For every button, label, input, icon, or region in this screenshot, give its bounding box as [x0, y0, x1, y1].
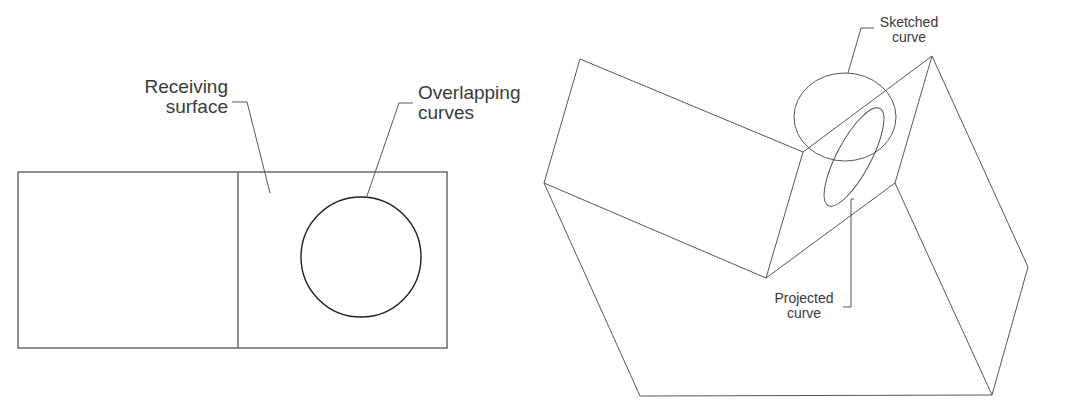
box-end-top	[803, 56, 932, 152]
wedge-inner-edge	[895, 183, 992, 395]
overlapping-circle	[301, 197, 421, 317]
overlapping-curves-line2: curves	[418, 103, 538, 123]
box-top-edge	[544, 59, 803, 183]
receiving-surface-line1: Receiving	[136, 77, 228, 97]
base-outline	[544, 56, 1028, 396]
sketched-curve-label: Sketched curve	[874, 15, 944, 44]
projected-curve-leader	[843, 199, 854, 307]
sketched-curve-leader	[848, 28, 874, 73]
right-panel-drawing	[544, 28, 1028, 396]
receiving-surface-label: Receiving surface	[136, 77, 228, 117]
wedge-ridge	[895, 56, 932, 183]
projected-curve-line1: Projected	[768, 291, 840, 306]
outer-rectangle	[18, 172, 447, 348]
projected-curve-label: Projected curve	[768, 291, 840, 320]
box-end-bottom	[766, 183, 895, 278]
overlapping-curves-label: Overlapping curves	[418, 83, 538, 123]
projected-curve-ellipse	[813, 100, 895, 213]
overlapping-curves-line1: Overlapping	[418, 83, 538, 103]
sketched-curve-line1: Sketched	[874, 15, 944, 30]
projected-curve-line2: curve	[768, 306, 840, 321]
receiving-surface-line2: surface	[136, 97, 228, 117]
left-panel-drawing	[18, 102, 447, 348]
diagram-canvas: Receiving surface Overlapping curves Ske…	[0, 0, 1070, 414]
diagram-drawing	[0, 0, 1070, 414]
box-front-vertical	[766, 152, 803, 278]
sketched-curve-line2: curve	[874, 30, 944, 45]
box-bottom-edge	[544, 183, 766, 278]
overlapping-curves-leader	[367, 103, 413, 196]
